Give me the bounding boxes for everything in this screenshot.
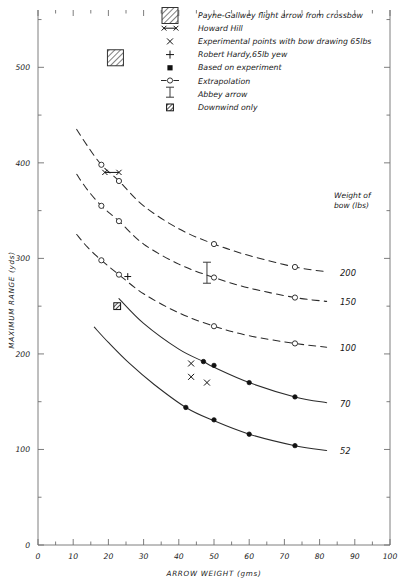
curve-labels: Weight ofbow (lbs)2001501007052	[334, 191, 372, 456]
curve-label-70: 70	[340, 399, 351, 409]
y-axis-title: MAXIMUM RANGE (yds)	[7, 251, 16, 348]
y-tick-label: 200	[16, 350, 31, 359]
curve-label-header-line2: bow (lbs)	[334, 201, 369, 210]
experimental-point-3	[204, 380, 210, 386]
curve-label-52: 52	[340, 446, 351, 456]
legend-label: Extrapolation	[198, 77, 250, 86]
y-tick-label: 500	[16, 63, 31, 72]
legend-label: Experimental points with bow drawing 65l…	[198, 37, 371, 46]
legend: Payne-Gallwey flight arrow from crossbow…	[161, 8, 371, 112]
experiment-marker	[201, 359, 205, 363]
y-tick-label: 0	[25, 541, 30, 550]
curve-52	[94, 327, 326, 450]
experimental-point-2	[188, 374, 194, 380]
x-tick-label: 90	[350, 552, 360, 561]
robert-hardy-point	[124, 273, 131, 280]
data-curves	[77, 129, 327, 450]
curve-label-150: 150	[340, 297, 356, 307]
experiment-marker	[247, 380, 251, 384]
abbey-arrow-point	[203, 262, 211, 283]
legend-label: Howard Hill	[198, 24, 244, 33]
axis-tick-labels: 01020304050607080901000100200300400500	[16, 63, 398, 561]
extrapolation-marker	[99, 258, 104, 263]
legend-item-4: Robert Hardy,65lb yew	[166, 50, 288, 59]
legend-item-8: Downwind only	[167, 103, 258, 112]
experiment-marker	[293, 443, 297, 447]
x-tick-label: 20	[104, 552, 114, 561]
annotation-markers	[102, 50, 211, 386]
extrapolation-marker	[99, 162, 104, 167]
y-tick-label: 300	[16, 254, 31, 263]
curve-200	[77, 129, 327, 271]
legend-label: Payne-Gallwey flight arrow from crossbow	[198, 11, 363, 20]
extrapolation-marker	[211, 275, 216, 280]
y-tick-label: 400	[16, 159, 31, 168]
extrapolation-marker	[292, 341, 297, 346]
x-tick-label: 100	[383, 552, 398, 561]
extrapolation-marker	[116, 219, 121, 224]
extrapolation-marker	[292, 295, 297, 300]
experimental-point-1	[188, 360, 194, 366]
downwind-only-point	[114, 303, 121, 310]
extrapolation-marker	[99, 203, 104, 208]
experiment-marker	[212, 363, 216, 367]
plot-canvas: 01020304050607080901000100200300400500 W…	[0, 0, 408, 585]
experiment-marker	[212, 418, 216, 422]
extrapolation-marker	[116, 178, 121, 183]
curve-label-200: 200	[340, 268, 356, 278]
curve-100	[77, 235, 327, 348]
legend-item-3: Experimental points with bow drawing 65l…	[167, 37, 371, 46]
curve-label-header-line1: Weight of	[334, 191, 372, 200]
hatched-square-icon	[162, 8, 178, 24]
x-tick-label: 30	[139, 552, 149, 561]
experiment-marker	[247, 432, 251, 436]
x-tick-label: 60	[244, 552, 254, 561]
extrapolation-marker	[211, 324, 216, 329]
legend-item-7: Abbey arrow	[166, 87, 248, 99]
x-axis-title: ARROW WEIGHT (gms)	[166, 569, 262, 578]
howard-hill-point	[102, 170, 121, 175]
payne-gallwey-point	[107, 50, 123, 66]
curve-label-100: 100	[340, 343, 356, 353]
legend-label: Robert Hardy,65lb yew	[198, 50, 288, 59]
curve-70	[119, 299, 327, 403]
x-tick-label: 0	[36, 552, 41, 561]
legend-item-2: Howard Hill	[162, 24, 244, 33]
experiment-marker	[184, 405, 188, 409]
legend-item-6: Extrapolation	[161, 77, 250, 86]
legend-label: Abbey arrow	[197, 90, 248, 99]
legend-item-1: Payne-Gallwey flight arrow from crossbow	[162, 8, 363, 24]
x-tick-label: 40	[174, 552, 184, 561]
legend-item-5: Based on experiment	[167, 63, 282, 72]
data-markers	[99, 162, 298, 448]
legend-label: Downwind only	[198, 103, 258, 112]
experiment-marker	[293, 395, 297, 399]
x-tick-label: 50	[209, 552, 219, 561]
extrapolation-marker	[116, 272, 121, 277]
x-tick-label: 70	[280, 552, 290, 561]
curve-150	[77, 174, 327, 301]
x-tick-label: 80	[315, 552, 325, 561]
extrapolation-marker	[211, 241, 216, 246]
y-tick-label: 100	[16, 445, 31, 454]
x-tick-label: 10	[68, 552, 78, 561]
archery-range-chart: 01020304050607080901000100200300400500 W…	[0, 0, 408, 585]
extrapolation-marker	[292, 264, 297, 269]
legend-label: Based on experiment	[198, 63, 282, 72]
